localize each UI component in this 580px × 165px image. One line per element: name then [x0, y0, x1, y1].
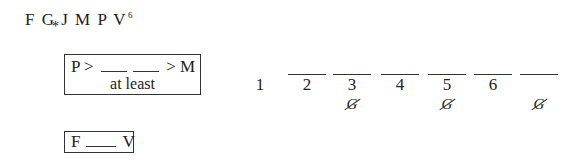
variable-list: F G J M P V6 — [25, 5, 133, 30]
rule-left: F — [71, 132, 80, 151]
blank-slot — [133, 57, 159, 72]
rule-gap-row: FV — [71, 132, 135, 152]
rule-order-row: P > > M — [71, 57, 195, 77]
rule-right: V — [122, 132, 134, 151]
eliminated-5: G — [427, 96, 467, 112]
struck-letter: G — [442, 96, 453, 112]
blank-slot — [101, 57, 127, 72]
slot-label-3: 3 — [332, 75, 372, 95]
slot-label-5: 5 — [427, 75, 467, 95]
asterisk-marker: * — [52, 20, 59, 34]
slot-label-2: 2 — [287, 75, 327, 95]
slot-label-1: 1 — [240, 75, 280, 95]
rule-box-gap: FV — [64, 131, 134, 153]
slot-label-4: 4 — [380, 75, 420, 95]
slot-label-6: 6 — [473, 75, 513, 95]
variable-letters: F G J M P V — [25, 10, 127, 29]
variable-count: 6 — [128, 10, 133, 20]
struck-letter: G — [534, 96, 545, 112]
eliminated-7: G — [519, 96, 559, 112]
rule-qualifier: at least — [65, 75, 200, 93]
eliminated-3: G — [332, 96, 372, 112]
struck-letter: G — [347, 96, 358, 112]
rule-right: > M — [166, 57, 195, 76]
blank-slot — [86, 132, 116, 147]
rule-left: P > — [71, 57, 94, 76]
rule-box-order: P > > M at least — [64, 54, 201, 95]
slot-line-7 — [520, 74, 558, 75]
